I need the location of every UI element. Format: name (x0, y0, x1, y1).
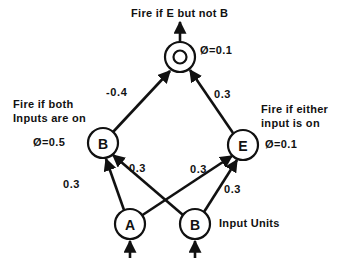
annotation-right-line1: Fire if either (261, 103, 328, 117)
threshold-hidden-b: Ø=0.5 (33, 136, 65, 150)
node-output-inner-ring (174, 51, 187, 64)
node-input-a-label: A (125, 217, 135, 233)
title-fire-if-e-but-not-b: Fire if E but not B (131, 7, 228, 21)
annotation-right-line2: input is on (261, 117, 320, 131)
weight-ainput-to-bhidden: 0.3 (63, 178, 80, 192)
annotation-left-line2: Inputs are on (13, 112, 86, 126)
weight-bhidden-to-output: -0.4 (106, 86, 127, 100)
diagram-canvas: B E A B Fire if E but not B Ø=0.1 Ø=0.5 … (0, 0, 352, 273)
node-hidden-b-label: B (98, 136, 108, 152)
annotation-input-units: Input Units (219, 217, 280, 231)
node-hidden-e-label: E (238, 138, 247, 154)
threshold-output: Ø=0.1 (200, 44, 232, 58)
annotation-left-line1: Fire if both (13, 98, 73, 112)
edge-bhidden-to-output (113, 71, 170, 132)
edge-ainput-to-ehidden (141, 156, 232, 216)
node-input-b-label: B (190, 217, 200, 233)
weight-ainput-to-ehidden: 0.3 (190, 163, 207, 177)
threshold-hidden-e: Ø=0.1 (265, 138, 297, 152)
edge-ainput-to-bhidden (106, 159, 124, 210)
weight-binput-to-bhidden: 0.3 (129, 162, 146, 176)
weight-binput-to-ehidden: 0.3 (224, 183, 241, 197)
weight-ehidden-to-output: 0.3 (214, 88, 231, 102)
